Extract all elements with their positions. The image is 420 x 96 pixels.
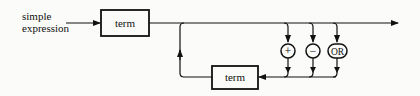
operator-plus-label: +: [285, 44, 292, 58]
entry-label-line1: simple: [22, 10, 51, 22]
term-box-loop: term: [212, 66, 258, 89]
operator-plus: +: [281, 23, 295, 77]
syntax-diagram: simple expression term term + − OR: [0, 0, 420, 96]
loop-back-path: [180, 23, 212, 77]
term-box-loop-label: term: [225, 71, 246, 83]
operator-minus: −: [306, 23, 320, 77]
term-box-main: term: [101, 10, 149, 36]
entry-label-line2: expression: [22, 22, 70, 34]
operator-or-label: OR: [331, 47, 345, 57]
operator-minus-label: −: [310, 44, 317, 58]
operator-or: OR: [328, 23, 347, 77]
term-box-main-label: term: [115, 17, 136, 29]
